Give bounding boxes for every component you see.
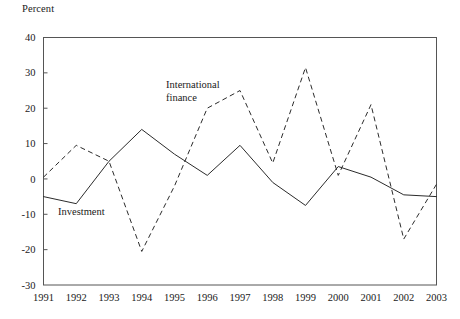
x-axis-label-2000: 2000 xyxy=(328,292,349,303)
series-line-international-finance xyxy=(44,68,437,252)
y-axis-label-40: 40 xyxy=(25,32,36,43)
x-axis-label-1995: 1995 xyxy=(164,292,185,303)
x-axis-label-2002: 2002 xyxy=(393,292,414,303)
y-axis-label-30: 30 xyxy=(25,67,36,78)
line-chart: Percent 403020100-10-20-30 1991199219931… xyxy=(0,0,460,319)
y-axis-label-20: 20 xyxy=(25,103,36,114)
chart-canvas: 403020100-10-20-30 199119921993199419951… xyxy=(0,0,460,319)
series-label-investment: Investment xyxy=(58,206,105,217)
x-axis-label-2001: 2001 xyxy=(361,292,382,303)
y-axis-label--20: -20 xyxy=(22,244,36,255)
y-axis-tick-labels: 403020100-10-20-30 xyxy=(22,32,36,291)
x-axis-label-1999: 1999 xyxy=(295,292,316,303)
x-axis-label-1994: 1994 xyxy=(131,292,153,303)
x-axis-label-1993: 1993 xyxy=(99,292,120,303)
y-axis-label-10: 10 xyxy=(25,138,36,149)
x-axis-label-2003: 2003 xyxy=(426,292,447,303)
y-axis-tick-marks xyxy=(44,73,48,250)
y-axis-label--10: -10 xyxy=(22,209,36,220)
y-axis-label-0: 0 xyxy=(30,174,35,185)
plot-frame xyxy=(44,38,437,286)
x-axis-label-1991: 1991 xyxy=(33,292,54,303)
series-line-investment xyxy=(44,129,437,205)
x-axis-label-1992: 1992 xyxy=(66,292,87,303)
x-axis-label-1997: 1997 xyxy=(230,292,251,303)
x-axis-tick-labels: 1991199219931994199519961997199819992000… xyxy=(33,292,447,303)
y-axis-label--30: -30 xyxy=(22,280,36,291)
series-label-international-finance: Internationalfinance xyxy=(166,79,220,103)
x-axis-label-1996: 1996 xyxy=(197,292,218,303)
x-axis-label-1998: 1998 xyxy=(262,292,283,303)
